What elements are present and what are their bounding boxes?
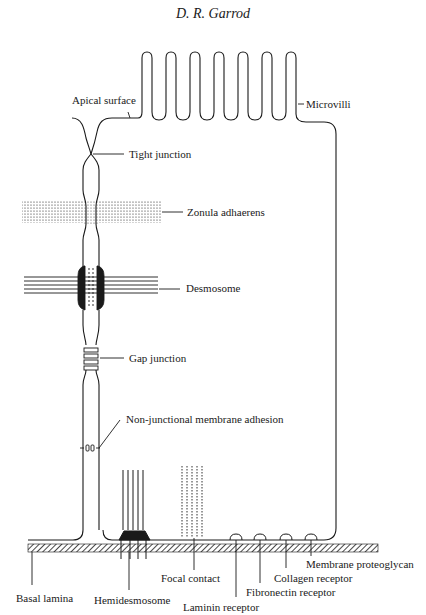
fibronectin-receptor-shape: [254, 534, 266, 540]
label-desmosome: Desmosome: [186, 282, 241, 294]
cell-junction-diagram: Apical surface Microvilli Tight junction…: [0, 0, 426, 615]
hemidesmosome-structure: [119, 470, 150, 540]
left-lateral-membrane-lower: [28, 370, 86, 540]
leader-lines: [32, 104, 311, 597]
laminin-receptor-shape: [230, 534, 242, 540]
zonula-adhaerens-structure: [22, 200, 161, 224]
right-cell-membrane: [91, 52, 336, 540]
label-non-junctional-adhesion: Non-junctional membrane adhesion: [126, 413, 284, 425]
label-basal-lamina: Basal lamina: [16, 592, 73, 604]
label-microvilli: Microvilli: [306, 98, 351, 110]
gap-junction-structure: [84, 348, 98, 370]
desmosome-structure: [24, 266, 158, 310]
label-collagen-receptor: Collagen receptor: [274, 572, 353, 584]
label-gap-junction: Gap junction: [129, 352, 187, 364]
basal-lamina-band: [28, 544, 378, 552]
label-zonula-adhaerens: Zonula adhaerens: [187, 206, 265, 218]
label-laminin-receptor: Laminin receptor: [183, 601, 259, 613]
label-membrane-proteoglycan: Membrane proteoglycan: [306, 558, 414, 570]
label-fibronectin-receptor: Fibronectin receptor: [246, 586, 336, 598]
right-lateral-membrane-lower: [96, 370, 99, 530]
label-focal-contact: Focal contact: [161, 572, 220, 584]
label-hemidesmosome: Hemidesmosome: [94, 594, 170, 606]
label-apical-surface: Apical surface: [72, 94, 136, 106]
focal-contact-structure: [182, 466, 202, 538]
label-tight-junction: Tight junction: [129, 148, 192, 160]
collagen-receptor-shape: [280, 534, 292, 540]
left-cell-apical-membrane: [72, 118, 91, 154]
membrane-proteoglycan-shape: [305, 534, 317, 540]
receptors: [230, 534, 317, 540]
